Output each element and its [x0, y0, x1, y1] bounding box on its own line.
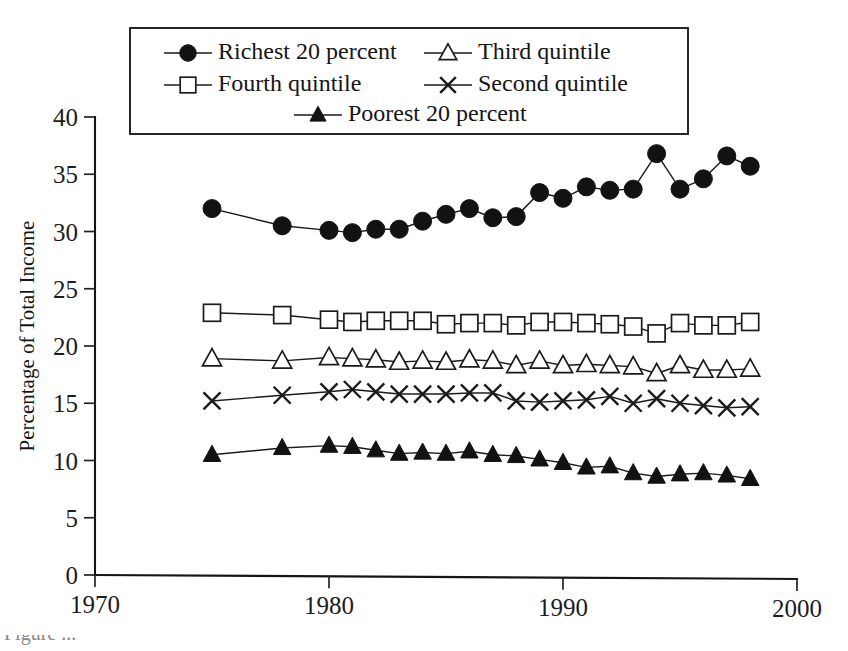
- y-tick-label: 15: [53, 390, 78, 417]
- data-point-marker: [437, 444, 454, 460]
- data-point-marker: [390, 220, 408, 238]
- data-point-marker: [344, 313, 361, 330]
- data-point-marker: [203, 349, 222, 366]
- x-tick-label: 1990: [538, 594, 588, 621]
- data-point-marker: [507, 446, 524, 462]
- legend-label: Fourth quintile: [218, 70, 361, 96]
- series-polyline: [212, 357, 750, 373]
- data-series: [204, 381, 759, 416]
- chart-figure: 0510152025303540 1970198019902000 Percen…: [0, 0, 848, 651]
- y-tick-label: 40: [53, 104, 78, 131]
- data-point-marker: [648, 390, 665, 407]
- data-point-marker: [343, 224, 361, 242]
- data-point-marker: [741, 359, 760, 376]
- y-tick-label: 0: [66, 562, 79, 589]
- data-point-marker: [273, 351, 292, 368]
- data-point-marker: [672, 315, 689, 332]
- data-point-marker: [577, 178, 595, 196]
- series-polyline: [212, 390, 750, 408]
- data-point-marker: [717, 360, 736, 377]
- data-point-marker: [366, 350, 385, 367]
- data-point-marker: [625, 395, 642, 412]
- data-point-marker: [625, 318, 642, 335]
- data-point-marker: [601, 457, 618, 473]
- data-point-marker: [391, 312, 408, 329]
- data-point-marker: [390, 352, 409, 369]
- data-point-marker: [438, 316, 455, 333]
- figure-caption: Figure ...: [4, 635, 76, 645]
- data-point-marker: [460, 350, 479, 367]
- data-point-marker: [484, 315, 501, 332]
- data-point-marker: [367, 312, 384, 329]
- data-point-marker: [718, 317, 735, 334]
- data-point-marker: [484, 209, 502, 227]
- data-point-marker: [321, 311, 338, 328]
- data-point-marker: [507, 208, 525, 226]
- data-point-marker: [414, 212, 432, 230]
- data-point-marker: [601, 181, 619, 199]
- data-point-marker: [483, 351, 502, 368]
- axis-titles: Percentage of Total Income: [15, 221, 39, 452]
- legend-label: Poorest 20 percent: [348, 100, 527, 126]
- legend-label: Richest 20 percent: [218, 38, 397, 64]
- data-point-marker: [273, 217, 291, 235]
- data-point-marker: [601, 388, 618, 405]
- data-point-marker: [555, 313, 572, 330]
- data-point-marker: [531, 184, 549, 202]
- data-point-marker: [578, 315, 595, 332]
- data-series: [203, 347, 760, 380]
- y-tick-label: 30: [53, 219, 78, 246]
- data-point-marker: [414, 312, 431, 329]
- data-point-marker: [180, 45, 197, 62]
- y-tick-label: 35: [53, 161, 78, 188]
- data-point-marker: [671, 180, 689, 198]
- data-series: [204, 304, 759, 342]
- y-axis-title: Percentage of Total Income: [15, 221, 39, 452]
- data-point-marker: [367, 220, 385, 238]
- data-point-marker: [530, 351, 549, 368]
- data-point-marker: [694, 170, 712, 188]
- data-series: [203, 436, 759, 485]
- chart-legend: Richest 20 percentThird quintileFourth q…: [130, 28, 688, 134]
- data-point-marker: [718, 466, 735, 482]
- data-point-marker: [203, 200, 221, 218]
- data-point-marker: [601, 316, 618, 333]
- data-point-marker: [554, 189, 572, 207]
- x-axis: 1970198019902000: [70, 575, 822, 622]
- data-series-group: [203, 145, 760, 486]
- x-tick-label: 1970: [70, 591, 120, 618]
- data-point-marker: [695, 464, 712, 480]
- data-point-marker: [320, 221, 338, 239]
- data-point-marker: [671, 355, 690, 372]
- data-point-marker: [344, 437, 361, 453]
- data-point-marker: [741, 157, 759, 175]
- data-point-marker: [461, 442, 478, 458]
- legend-label: Third quintile: [478, 38, 611, 64]
- x-tick-label: 1980: [304, 592, 354, 619]
- data-point-marker: [671, 465, 688, 481]
- data-point-marker: [320, 347, 339, 364]
- data-point-marker: [577, 354, 596, 371]
- data-point-marker: [437, 352, 456, 369]
- data-point-marker: [273, 438, 290, 454]
- data-point-marker: [343, 349, 362, 366]
- data-series: [203, 145, 759, 242]
- data-point-marker: [695, 317, 712, 334]
- data-point-marker: [274, 307, 291, 324]
- data-point-marker: [742, 313, 759, 330]
- figure-caption-strip: Figure ...: [0, 635, 848, 651]
- data-point-marker: [320, 436, 337, 452]
- data-point-marker: [413, 351, 432, 368]
- data-point-marker: [461, 315, 478, 332]
- y-tick-label: 10: [53, 448, 78, 475]
- series-polyline: [212, 446, 750, 479]
- data-point-marker: [180, 77, 196, 93]
- data-point-marker: [437, 205, 455, 223]
- data-point-marker: [600, 355, 619, 372]
- data-point-marker: [531, 313, 548, 330]
- data-point-marker: [718, 147, 736, 165]
- data-point-marker: [414, 443, 431, 459]
- legend-label: Second quintile: [478, 70, 628, 96]
- data-point-marker: [648, 145, 666, 163]
- y-axis: 0510152025303540: [53, 104, 95, 589]
